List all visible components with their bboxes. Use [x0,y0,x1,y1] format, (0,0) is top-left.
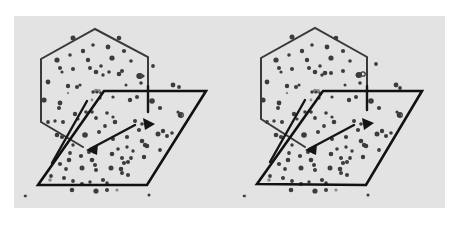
atom-dot [94,70,99,75]
atom-dot [111,115,114,118]
atom-dot [309,158,314,163]
atom-dot [279,70,282,73]
atom-dot [328,166,333,171]
atom-dot [354,95,358,99]
atom-dot [149,98,155,104]
atom-dot [94,168,98,172]
atom-dot [359,122,363,126]
atom-dot [290,143,293,146]
atom-dot [139,81,143,85]
atom-dot [277,66,281,70]
atom-dot [277,162,281,166]
atom-dot [91,43,95,47]
atom-dot [298,154,302,158]
atom-dot [287,53,291,57]
atom-dot [116,147,120,151]
faint-atom-dot [48,178,52,182]
atom-dot [313,70,318,75]
atom-dot [135,95,139,99]
atom-dot [71,67,75,71]
atom-dot [58,101,63,106]
atom-dot [389,131,393,135]
atom-dot [117,36,122,41]
atom-dot [358,81,362,85]
atom-dot [281,176,285,180]
atom-dot [280,120,284,124]
atom-dot [356,128,360,132]
atom-dot [313,168,317,172]
atom-dot [314,90,317,93]
atom-dot [301,132,307,138]
atom-dot [41,97,46,102]
atom-dot [344,145,347,148]
atom-dot [106,45,111,50]
atom-dot [285,84,289,88]
atom-dot [148,194,151,197]
atom-dot [86,58,90,62]
faint-atom-dot [91,99,94,102]
atom-dot [58,66,62,70]
atom-dot [103,124,107,128]
atom-dot [67,158,72,163]
atom-dot [380,129,384,133]
atom-dot [111,95,114,98]
atom-dot [88,180,91,183]
atom-dot [70,188,75,193]
atom-dot [297,83,300,86]
atom-dot [94,116,98,120]
atom-dot [54,57,59,62]
atom-dot [126,173,130,177]
atom-dot [332,120,337,125]
atom-dot [307,66,311,70]
atom-dot [398,86,402,90]
atom-dot [46,80,51,85]
atom-dot [73,112,77,116]
atom-dot [64,167,68,171]
atom-dot [142,155,146,159]
atom-dot [61,120,65,124]
atom-dot [325,45,330,50]
atom-dot [345,160,349,164]
atom-dot [71,143,74,146]
atom-dot [368,98,374,104]
atom-dot [165,134,169,138]
atom-dot [329,152,334,157]
atom-dot [328,55,333,60]
atom-dot [161,129,165,133]
atom-dot [81,49,85,53]
atom-dot [140,139,145,144]
atom-dot [312,188,317,193]
atom-dot [323,71,328,76]
atom-dot [62,176,66,180]
atom-dot [265,80,270,85]
atom-dot [283,167,287,171]
atom-dot [286,158,291,163]
faint-atom-dot [267,178,271,182]
atom-dot [330,95,333,98]
faint-atom-dot [67,92,69,94]
atom-dot [375,132,380,137]
atom-dot [322,124,326,128]
atom-dot [53,119,56,122]
atom-dot [24,195,27,198]
atom-dot [128,98,132,102]
atom-dot [120,156,124,160]
atom-dot [109,55,114,60]
atom-dot [276,106,280,110]
atom-dot [156,132,161,137]
atom-dot [131,149,134,152]
atom-dot [243,195,246,198]
atom-dot [341,69,345,73]
atom-dot [71,179,75,183]
atom-dot [324,188,328,192]
atom-dot [93,188,98,193]
atom-dot [129,59,133,63]
atom-dot [335,147,339,151]
atom-dot [287,151,291,155]
atom-dot [347,98,351,102]
atom-dot [330,115,333,118]
atom-dot [361,155,365,159]
atom-dot [49,174,53,178]
atom-dot [129,156,133,160]
atom-dot [272,119,275,122]
